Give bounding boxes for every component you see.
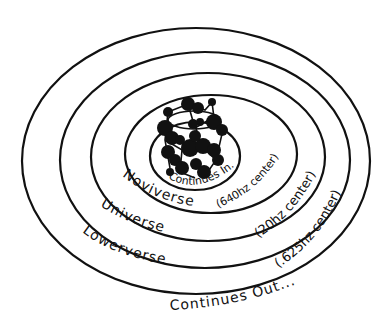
nested-universes-diagram: Continues In... Noviverse (640hz center)…: [0, 0, 392, 324]
outer-label: Continues Out...: [169, 272, 297, 313]
